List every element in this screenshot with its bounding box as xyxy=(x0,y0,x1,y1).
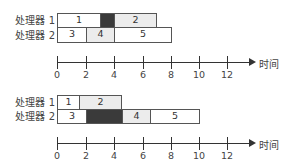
task-bar: 4 xyxy=(122,109,151,124)
task-bar: 2 xyxy=(79,95,122,110)
processor-1-label: 处理器 1 xyxy=(0,96,55,109)
task-bar: 3 xyxy=(57,109,87,124)
task-bar: 5 xyxy=(150,109,200,124)
axis-tick-label: 8 xyxy=(161,150,181,161)
axis-tick-label: 4 xyxy=(104,150,124,161)
axis-tick-label: 12 xyxy=(217,150,237,161)
axis-tick xyxy=(199,137,200,150)
axis-tick xyxy=(57,137,58,150)
processor-2-label: 处理器 2 xyxy=(0,110,55,123)
task-bar: 1 xyxy=(57,95,80,110)
axis-tick-label: 10 xyxy=(189,150,209,161)
axis-tick xyxy=(114,137,115,150)
axis-tick xyxy=(171,137,172,150)
axis-tick-label: 6 xyxy=(133,150,153,161)
axis-tick-label: 0 xyxy=(47,150,67,161)
axis-tick xyxy=(143,137,144,150)
idle-bar xyxy=(86,109,123,124)
axis-tick xyxy=(86,137,87,150)
schedule-diagram-bottom: 处理器 1 处理器 2 1 2 3 4 5 0 2 4 6 8 10 12 时间 xyxy=(0,0,295,167)
axis-tick-label: 2 xyxy=(76,150,96,161)
axis-tick xyxy=(227,137,228,150)
arrow-right-icon xyxy=(249,139,256,147)
axis-title: 时间 xyxy=(259,137,279,152)
